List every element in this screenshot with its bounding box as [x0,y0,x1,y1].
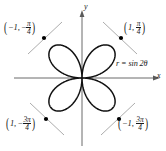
fraction-numerator: 3π [23,116,31,124]
x-axis-label: x [157,71,161,80]
fraction-denominator: 4 [136,123,144,132]
fraction-denominator: 4 [23,123,31,132]
theta-fraction: π4 [26,20,31,36]
point-top-right [119,36,123,40]
point-top-left [42,36,46,40]
curve-equation-label: r = sin 2θ [116,60,148,68]
point-label-top-right: (1, π4) [123,20,146,36]
point-label-bottom-right: (−1, 3π4) [117,116,149,132]
fraction-denominator: 4 [136,27,141,36]
fraction-numerator: 3π [136,116,144,124]
radius-value: −1 [8,22,18,32]
fraction-denominator: 4 [26,27,31,36]
fraction-numerator: π [136,20,141,28]
y-axis-label: y [84,2,88,11]
fraction-numerator: π [26,20,31,28]
point-label-bottom-left: (1, −3π4) [5,116,36,132]
theta-fraction: 3π4 [136,116,144,132]
radius-value: −1 [122,118,132,128]
theta-fraction: π4 [136,20,141,36]
y-axis-arrowhead [80,10,85,17]
point-bottom-left [44,117,48,121]
point-label-top-left: (−1, −π4) [3,20,36,36]
theta-fraction: 3π4 [23,116,31,132]
